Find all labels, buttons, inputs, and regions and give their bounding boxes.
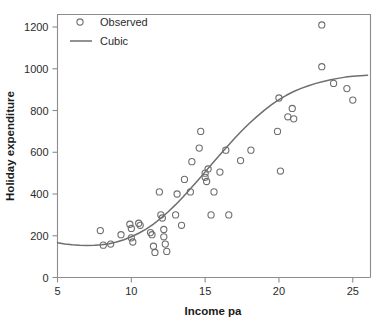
data-point [152, 249, 158, 255]
data-point [344, 86, 350, 92]
data-point [164, 248, 170, 254]
data-point [217, 169, 223, 175]
x-tick-label: 15 [199, 285, 211, 297]
data-point [211, 189, 217, 195]
legend-label-observed: Observed [100, 16, 148, 28]
data-point [174, 191, 180, 197]
data-point [189, 159, 195, 165]
data-point [204, 178, 210, 184]
x-axis-ticks: 510152025 [54, 278, 358, 297]
plot-box [58, 15, 371, 278]
x-tick-label: 5 [54, 285, 60, 297]
legend-marker-observed-icon [77, 19, 83, 25]
chart-legend: Observed Cubic [70, 16, 148, 47]
data-point [289, 105, 295, 111]
y-tick-label: 0 [42, 272, 48, 284]
y-tick-label: 600 [30, 146, 48, 158]
data-point [274, 128, 280, 134]
data-point [128, 225, 134, 231]
cubic-fit-curve [58, 75, 368, 245]
y-tick-label: 1000 [24, 63, 48, 75]
y-tick-label: 800 [30, 105, 48, 117]
data-point [161, 226, 167, 232]
y-tick-label: 1200 [24, 21, 48, 33]
data-point [130, 239, 136, 245]
data-point [181, 176, 187, 182]
data-point [173, 212, 179, 218]
data-point [208, 212, 214, 218]
data-point [330, 80, 336, 86]
x-tick-label: 10 [125, 285, 137, 297]
data-point [319, 64, 325, 70]
data-point [156, 189, 162, 195]
data-point [150, 243, 156, 249]
y-tick-label: 200 [30, 230, 48, 242]
x-axis-title: Income pa [185, 305, 242, 317]
data-point [285, 114, 291, 120]
data-point [277, 168, 283, 174]
y-axis-title: Holiday expenditure [4, 91, 16, 201]
legend-label-cubic: Cubic [100, 35, 129, 47]
data-point [127, 221, 133, 227]
data-point [196, 145, 202, 151]
data-point [319, 22, 325, 28]
x-tick-label: 20 [273, 285, 285, 297]
x-tick-label: 25 [347, 285, 359, 297]
y-axis-ticks: 020040060080010001200 [24, 21, 57, 283]
data-point [161, 234, 167, 240]
data-point [226, 212, 232, 218]
data-point [162, 241, 168, 247]
data-point [291, 116, 297, 122]
observed-data-points [97, 22, 356, 256]
cubic-fit-path [58, 75, 368, 245]
data-point [237, 158, 243, 164]
y-tick-label: 400 [30, 188, 48, 200]
data-point [118, 232, 124, 238]
scatter-plot-svg: 510152025 020040060080010001200 Income p… [0, 0, 388, 323]
plot-frame [58, 15, 371, 278]
data-point [248, 147, 254, 153]
data-point [97, 227, 103, 233]
chart-figure: 510152025 020040060080010001200 Income p… [0, 0, 388, 323]
data-point [350, 97, 356, 103]
data-point [198, 128, 204, 134]
data-point [178, 222, 184, 228]
